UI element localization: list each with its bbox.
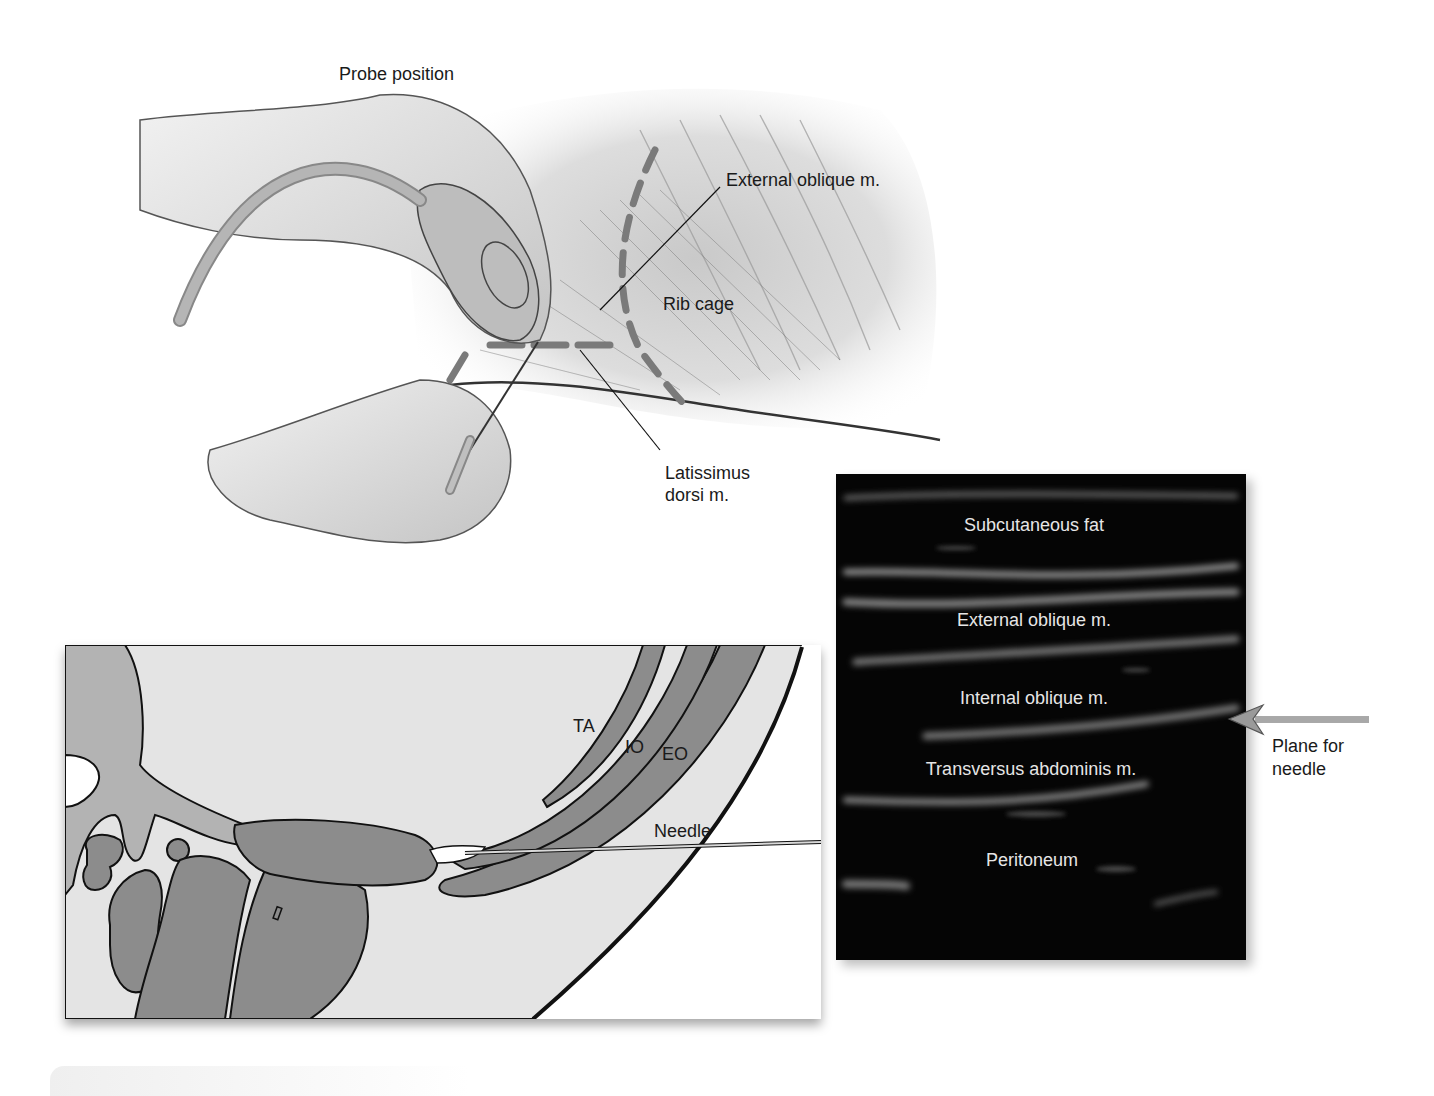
ultrasound-image: Subcutaneous fat External oblique m. Int… <box>836 474 1246 960</box>
probe-position-illustration <box>120 50 960 570</box>
label-external-oblique: External oblique m. <box>726 170 880 191</box>
plane-arrow-icon <box>1225 703 1375 737</box>
label-plane-line1: Plane for <box>1272 736 1344 757</box>
label-needle: Needle <box>654 821 711 842</box>
label-latissimus-line1: Latissimus <box>665 463 750 484</box>
ultrasound-texture <box>836 474 1246 960</box>
us-label-subcutaneous-fat: Subcutaneous fat <box>964 515 1104 536</box>
us-label-peritoneum: Peritoneum <box>986 850 1078 871</box>
label-io: IO <box>625 737 644 758</box>
flank-drawing <box>120 50 960 570</box>
cross-section-diagram: TA IO EO Needle <box>65 645 821 1019</box>
label-rib-cage: Rib cage <box>663 294 734 315</box>
footer-tab <box>50 1066 470 1096</box>
label-eo: EO <box>662 744 688 765</box>
us-label-internal-oblique: Internal oblique m. <box>960 688 1108 709</box>
us-label-transversus-abdominis: Transversus abdominis m. <box>926 759 1136 780</box>
probe-position-title: Probe position <box>339 64 454 85</box>
label-ta: TA <box>573 716 595 737</box>
label-plane-line2: needle <box>1272 759 1326 780</box>
us-label-external-oblique: External oblique m. <box>957 610 1111 631</box>
label-latissimus-line2: dorsi m. <box>665 485 729 506</box>
